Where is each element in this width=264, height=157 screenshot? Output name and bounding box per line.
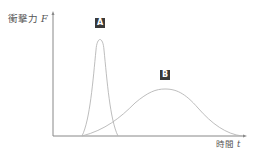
x-axis-label: 時間t: [216, 137, 240, 149]
x-axis-arrow-icon: [243, 135, 247, 138]
curve-b: [82, 89, 242, 136]
x-axis-label-text: 時間: [216, 139, 234, 149]
curve-a-label: A: [95, 18, 105, 28]
y-axis-label-text: 衝撃力: [8, 13, 38, 24]
y-axis-symbol: F: [41, 13, 48, 24]
curve-a: [82, 40, 118, 137]
x-axis-symbol: t: [237, 139, 240, 149]
y-axis-arrow-icon: [52, 11, 55, 15]
curve-b-label: B: [160, 70, 170, 80]
y-axis-label: 衝撃力F: [8, 11, 48, 25]
